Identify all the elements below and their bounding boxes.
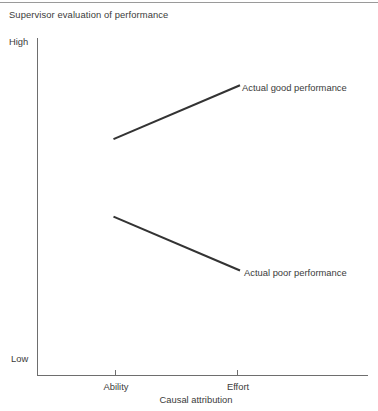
- series-annotation-actual-poor-performance: Actual poor performance: [244, 267, 347, 278]
- x-tick-label-ability: Ability: [103, 381, 128, 392]
- x-tick-mark-ability: [115, 370, 116, 375]
- x-tick-label-effort: Effort: [227, 381, 249, 392]
- chart-title: Supervisor evaluation of performance: [9, 9, 168, 20]
- top-divider-rule: [0, 2, 378, 3]
- series-line-actual-good-performance: [114, 85, 241, 139]
- x-tick-mark-effort: [237, 370, 238, 375]
- y-axis-low-label: Low: [11, 353, 28, 364]
- series-annotation-actual-good-performance: Actual good performance: [242, 82, 347, 93]
- figure-canvas: Supervisor evaluation of performance Hig…: [0, 0, 378, 411]
- y-axis-high-label: High: [9, 36, 28, 47]
- x-axis-line: [37, 375, 368, 376]
- x-axis-title: Causal attribution: [160, 394, 233, 405]
- series-line-actual-poor-performance: [114, 217, 241, 271]
- y-axis-line: [37, 38, 38, 376]
- series-plot-area: [0, 0, 378, 411]
